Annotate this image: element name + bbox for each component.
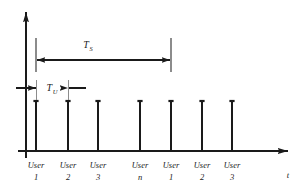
user-slot-label-line2: 3 [95, 172, 100, 182]
annotation-frame-duration: TS [36, 38, 171, 72]
user-slot-label-line2: 2 [200, 172, 205, 182]
axes-group: t [18, 12, 290, 180]
user-slot-label-line1: User [194, 160, 211, 170]
pulse-train-group [33, 101, 234, 151]
user-slot-label-line1: User [60, 160, 77, 170]
timing-diagram-figure: t User1User2User3UsernUser1User2User3 TS… [0, 0, 307, 193]
user-slot-label: User1 [28, 160, 45, 182]
user-slot-label: User2 [60, 160, 77, 182]
ts-label: TS [83, 39, 93, 52]
user-slot-label: Usern [132, 160, 149, 182]
user-slot-label: User3 [90, 160, 107, 182]
tu-label-subscript: U [53, 88, 59, 95]
user-slot-label-line2: 3 [229, 172, 234, 182]
tu-label: TU [47, 82, 59, 95]
user-slot-label-line1: User [224, 160, 241, 170]
user-slot-label-line2: 2 [66, 172, 71, 182]
timing-diagram-canvas: t User1User2User3UsernUser1User2User3 TS… [0, 0, 307, 193]
user-slot-label-line2: n [138, 172, 142, 182]
user-slot-label-line2: 1 [169, 172, 173, 182]
category-labels-group: User1User2User3UsernUser1User2User3 [28, 160, 241, 182]
user-slot-label-line1: User [90, 160, 107, 170]
user-slot-label: User1 [163, 160, 180, 182]
user-slot-label-line1: User [28, 160, 45, 170]
x-axis-label: t [287, 170, 290, 180]
user-slot-label-line1: User [163, 160, 180, 170]
user-slot-label-line1: User [132, 160, 149, 170]
user-slot-label: User2 [194, 160, 211, 182]
ts-label-subscript: S [89, 45, 93, 52]
user-slot-label-line2: 1 [34, 172, 38, 182]
user-slot-label: User3 [224, 160, 241, 182]
